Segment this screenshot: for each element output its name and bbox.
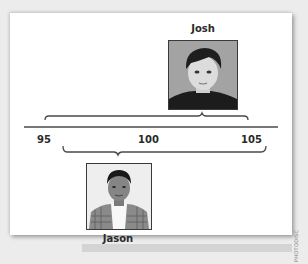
photo-credit: PHOTODISC — [293, 230, 299, 262]
brace-josh — [45, 113, 248, 120]
brace-jason — [63, 146, 266, 155]
tick-label-100: 100 — [138, 134, 159, 145]
number-line-diagram — [0, 0, 308, 264]
tick-label-95: 95 — [37, 134, 51, 145]
tick-label-105: 105 — [241, 134, 262, 145]
